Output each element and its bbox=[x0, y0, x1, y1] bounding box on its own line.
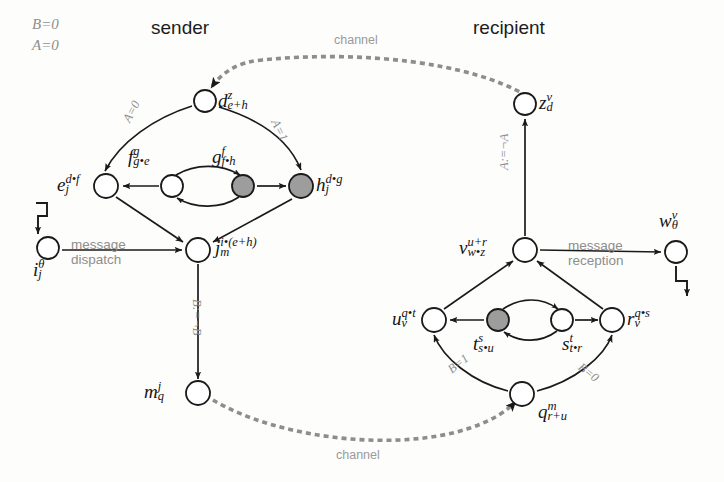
node-label-u: u q•t v bbox=[392, 306, 416, 330]
node-label-j: j i•(e+h) m bbox=[215, 235, 257, 259]
state-flag-a: A=0 bbox=[32, 37, 59, 54]
edge-r-to-v bbox=[537, 261, 603, 309]
edge-channel-top bbox=[211, 57, 527, 96]
edge-channel-bottom bbox=[213, 400, 516, 440]
state-flag-b: B=0 bbox=[32, 16, 59, 33]
node-u[interactable] bbox=[422, 308, 446, 332]
node-label-v-base: v bbox=[459, 237, 467, 259]
node-z[interactable] bbox=[514, 93, 536, 115]
title-recipient: recipient bbox=[473, 17, 545, 39]
node-label-d-base: d bbox=[218, 90, 228, 112]
node-j[interactable] bbox=[186, 238, 210, 262]
diagram-canvas: sender recipient B=0 A=0 channel channel… bbox=[0, 0, 724, 482]
node-m[interactable] bbox=[186, 381, 210, 405]
node-q[interactable] bbox=[510, 382, 534, 406]
message-reception-line1: message bbox=[568, 238, 624, 253]
node-i[interactable] bbox=[37, 237, 59, 259]
node-label-m: m j q bbox=[144, 379, 164, 403]
node-label-h: h d•g j bbox=[316, 172, 342, 196]
node-label-v-sub: w•z bbox=[467, 247, 487, 258]
message-reception-line2: reception bbox=[568, 253, 624, 268]
node-label-w-sub: θ bbox=[672, 220, 678, 231]
node-label-d-sub: e+h bbox=[228, 100, 248, 111]
node-label-z-base: z bbox=[539, 92, 546, 114]
edge-label-v-to-z: A:=¬A bbox=[497, 134, 512, 170]
message-dispatch-line1: message bbox=[71, 237, 126, 252]
node-label-m-sub: q bbox=[158, 391, 164, 402]
edge-t-to-s-top bbox=[503, 300, 558, 309]
edge-exit-hook bbox=[676, 266, 687, 296]
message-reception-label: message reception bbox=[568, 238, 624, 268]
edge-g-to-f-bottom bbox=[177, 197, 239, 206]
node-label-u-base: u bbox=[392, 308, 402, 330]
node-d[interactable] bbox=[194, 90, 216, 112]
node-label-s: s t t•r bbox=[562, 331, 582, 355]
node-w[interactable] bbox=[665, 241, 687, 263]
node-label-z: z v d bbox=[539, 90, 553, 114]
node-label-r: r q•s v bbox=[627, 306, 650, 330]
message-dispatch-label: message dispatch bbox=[71, 237, 126, 267]
node-label-m-base: m bbox=[144, 381, 158, 403]
node-label-s-base: s bbox=[562, 333, 569, 355]
message-dispatch-line2: dispatch bbox=[71, 252, 126, 267]
channel-label-top: channel bbox=[334, 33, 378, 47]
node-label-z-sub: d bbox=[546, 102, 552, 113]
node-label-d: d z e+h bbox=[218, 88, 248, 112]
node-label-f: f g g•e bbox=[128, 144, 149, 168]
node-r[interactable] bbox=[600, 308, 624, 332]
edge-u-to-v bbox=[444, 261, 513, 309]
node-f[interactable] bbox=[161, 175, 183, 197]
node-label-q: q m r+u bbox=[538, 399, 567, 423]
node-label-t: t s s•u bbox=[473, 331, 494, 355]
node-t[interactable] bbox=[487, 309, 509, 331]
edge-entry-hook bbox=[36, 203, 47, 234]
node-h[interactable] bbox=[289, 174, 313, 198]
node-label-s-sub: t•r bbox=[569, 343, 582, 354]
node-label-h-base: h bbox=[316, 174, 326, 196]
edge-label-j-to-m: B:=¬B bbox=[189, 299, 204, 335]
node-label-q-base: q bbox=[538, 401, 548, 423]
node-g[interactable] bbox=[232, 175, 254, 197]
node-label-t-sub: s•u bbox=[478, 343, 494, 354]
node-label-g: g f f•h bbox=[212, 144, 236, 168]
title-sender: sender bbox=[151, 17, 209, 39]
node-label-e: e d•f j bbox=[57, 172, 80, 196]
edge-s-to-t-bottom bbox=[504, 331, 557, 340]
node-label-w: w v θ bbox=[659, 208, 678, 232]
node-label-q-sub: r+u bbox=[548, 411, 568, 422]
node-label-g-base: g bbox=[212, 146, 222, 168]
node-label-g-sub: f•h bbox=[222, 156, 236, 167]
node-label-w-base: w bbox=[659, 210, 672, 232]
node-label-v: v u+r w•z bbox=[459, 235, 487, 259]
node-s[interactable] bbox=[551, 309, 573, 331]
edge-e-to-j bbox=[116, 197, 183, 242]
channel-label-bottom: channel bbox=[336, 448, 380, 462]
node-label-r-base: r bbox=[627, 308, 634, 330]
node-label-f-sub: g•e bbox=[133, 156, 149, 167]
node-v[interactable] bbox=[513, 238, 537, 262]
node-e[interactable] bbox=[94, 174, 118, 198]
node-label-i: i θ j bbox=[33, 257, 44, 281]
